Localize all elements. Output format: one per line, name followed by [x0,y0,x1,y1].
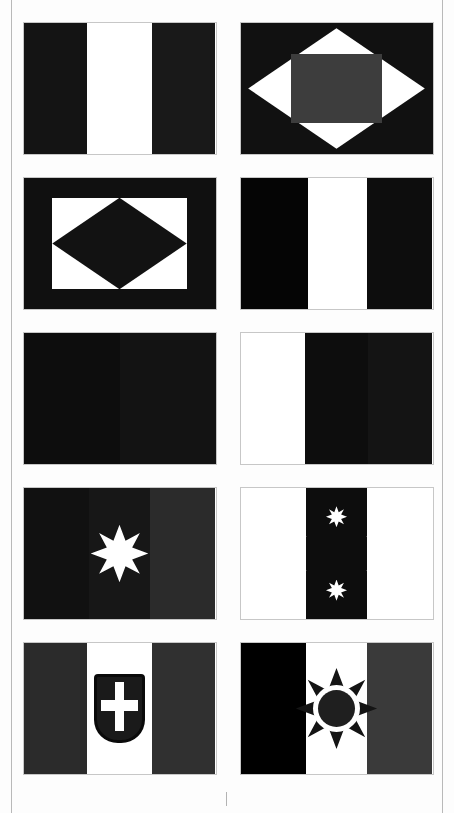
flag-cell [16,169,223,318]
vertical-triband-with-crowned-shield-cross[interactable] [24,643,216,774]
dark-border-white-field-dark-lozenge[interactable] [24,178,216,309]
dark-field-white-lozenge-gray-rectangle[interactable] [241,23,433,154]
white-eight-pointed-star [326,580,347,601]
shield-with-white-cross [94,674,146,742]
flag-cell [233,634,440,783]
vertical-triband-black-white-dark[interactable] [241,178,433,309]
vertical-triband-dark-white-dark[interactable] [24,23,216,154]
white-eight-pointed-star [366,526,387,547]
fly-stripe [367,178,432,309]
white-eight-pointed-star [286,560,307,581]
white-eight-pointed-star [91,525,149,583]
middle-stripe [87,23,151,154]
fly-stripe [367,488,432,619]
sun-disc [318,690,355,727]
stripe-group [241,333,433,464]
flag-cell [16,634,223,783]
hoist-stripe [24,333,120,464]
hoist-stripe [241,333,305,464]
stripe-group [241,178,433,309]
vertical-triband-black-white-gray-with-sun[interactable] [241,643,433,774]
eight-pointed-sun-with-ring [296,668,377,749]
middle-stripe [308,178,368,309]
middle-stripe [305,333,368,464]
stripe-group [24,23,216,154]
flag-cell [233,324,440,473]
white-eight-pointed-star [286,526,307,547]
flag-cell [16,14,223,163]
white-field [52,198,186,290]
fly-stripe [152,23,216,154]
hoist-stripe [24,488,89,619]
fly-stripe [152,643,216,774]
fly-stripe [368,333,432,464]
flag-cell [233,169,440,318]
stripe-group [24,333,216,464]
fly-stripe [150,488,215,619]
flag-cell [16,324,223,473]
fly-stripe [120,333,216,464]
hoist-stripe [241,178,308,309]
hoist-stripe [241,488,306,619]
white-eight-pointed-star [326,506,347,527]
flag-cell [233,479,440,628]
vertical-bicolor-dark-dark[interactable] [24,333,216,464]
flag-cell [16,479,223,628]
vertical-triband-dark-with-white-star[interactable] [24,488,216,619]
vertical-triband-white-dark-dark[interactable] [241,333,433,464]
flag-cell [233,14,440,163]
dark-lozenge [52,198,186,290]
scanned-page [0,0,454,813]
flag-grid [0,0,454,813]
hoist-stripe [24,23,88,154]
hoist-stripe [24,643,88,774]
shield-cross-horizontal [101,700,138,711]
vertical-triband-white-dark-white-six-stars[interactable] [241,488,433,619]
gray-rectangle [291,54,381,122]
white-eight-pointed-star [366,560,387,581]
